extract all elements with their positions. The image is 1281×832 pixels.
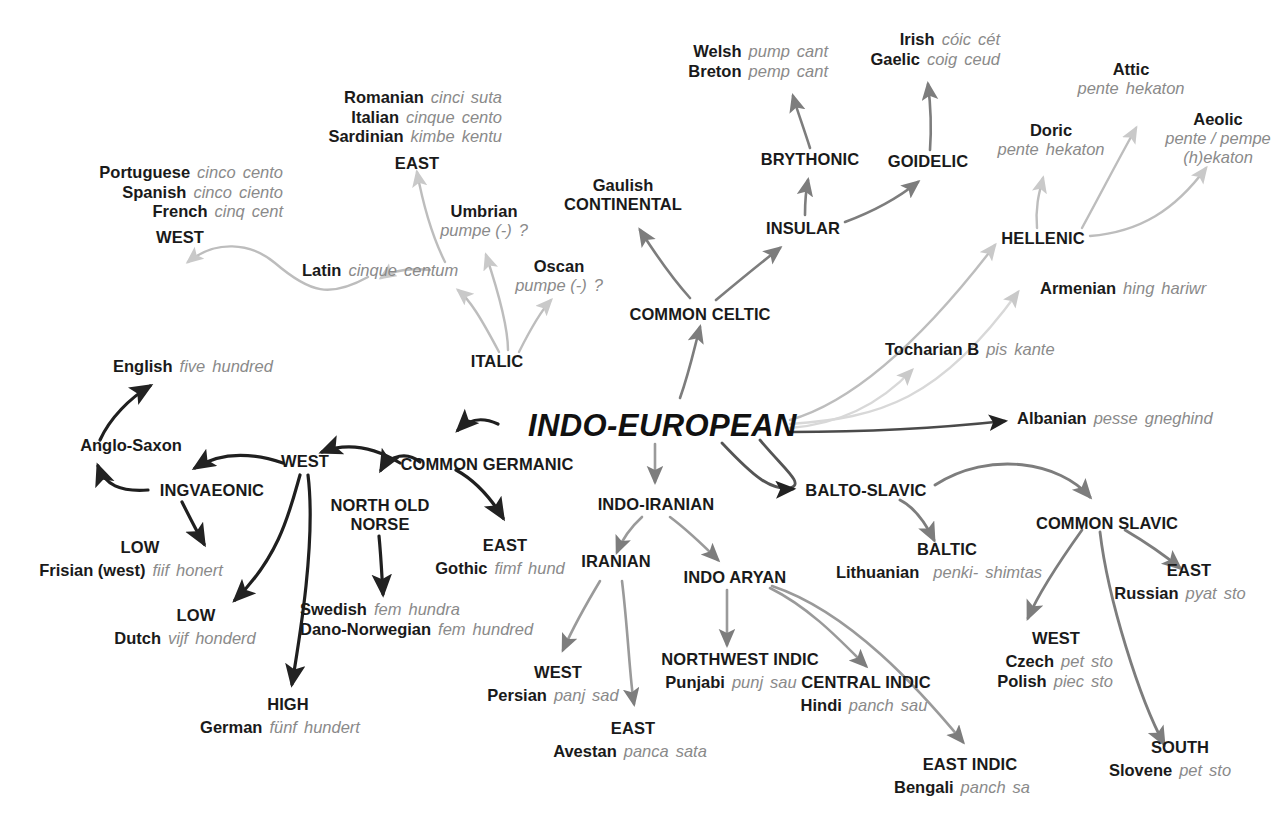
numeral-hundred: hekaton [1046, 140, 1105, 158]
language-entry-persian: Persianpanjsad [487, 686, 618, 706]
language-entry-welsh: Welshpumpcant [688, 42, 828, 62]
numeral-five: cinq [215, 202, 245, 220]
group-goidelic: GOIDELIC [888, 152, 969, 171]
language-entry-dutch: Dutchvijfhonderd [114, 629, 255, 649]
numeral-hundred: ? [519, 221, 528, 239]
language-entry-hindi: Hindipanchsau [801, 696, 928, 716]
language-entry-latin: Latincinquecentum [302, 261, 458, 281]
language-entry-polish: Polishpiecsto [997, 672, 1113, 692]
numeral-five: pente / pempe [1165, 129, 1271, 148]
numeral-five: cinque [348, 261, 397, 279]
language-name: Doric [997, 121, 1104, 140]
romance-west-languages: Portuguesecincocento Spanishcincociento … [99, 163, 283, 222]
numeral-five: piec [1054, 672, 1084, 690]
numeral-hundred: hundred [473, 620, 534, 638]
norse-languages: Swedishfemhundra Dano-Norwegianfemhundre… [300, 600, 533, 639]
language-entry-attic: Attic pentehekaton [1077, 60, 1184, 99]
numeral-five: fem [374, 600, 402, 618]
numeral-hundred: shimtas [985, 563, 1042, 581]
numeral-five: vijf [168, 629, 188, 647]
group-continental: CONTINENTAL [564, 195, 682, 214]
numeral-hundred: cant [797, 42, 828, 60]
group-common-celtic: COMMON CELTIC [629, 305, 770, 324]
numeral-hundred: sto [1224, 584, 1246, 602]
group-north-old-norse: NORTH OLD NORSE [331, 496, 430, 534]
numeral-five: pumpe (-) [515, 276, 587, 294]
numeral-hundred: cento [243, 163, 283, 181]
language-name: Tocharian B [885, 340, 979, 358]
doric-glosses: pentehekaton [997, 140, 1104, 160]
language-name: Frisian (west) [39, 561, 145, 579]
language-entry-bengali: Bengalipanchsa [894, 778, 1030, 798]
numeral-five: pump [749, 42, 790, 60]
numeral-hundred: cent [252, 202, 283, 220]
language-name: English [113, 357, 173, 375]
numeral-five: pente [997, 140, 1038, 158]
romance-east-languages: Romaniancincisuta Italiancinquecento Sar… [328, 88, 502, 147]
numeral-five: pesse [1094, 409, 1138, 427]
attic-glosses: pentehekaton [1077, 79, 1184, 99]
numeral-five: panch [961, 778, 1006, 796]
numeral-hundred: cant [797, 62, 828, 80]
language-name: Avestan [553, 742, 617, 760]
group-balto-slavic: BALTO-SLAVIC [805, 481, 926, 500]
group-indo-aryan: INDO ARYAN [684, 568, 787, 587]
group-west-germanic: WEST [281, 452, 329, 471]
group-romance-west: WEST [156, 228, 204, 247]
language-name: Bengali [894, 778, 954, 796]
numeral-hundred: ceud [964, 50, 1000, 68]
group-baltic: BALTIC [917, 540, 977, 559]
group-brythonic: BRYTHONIC [761, 150, 859, 169]
language-name: Umbrian [440, 202, 528, 221]
node-gaulish-continental: Gaulish CONTINENTAL [564, 176, 682, 214]
group-east-indic: EAST INDIC [923, 755, 1018, 774]
numeral-five: cinco [193, 183, 232, 201]
numeral-five: fünf [269, 718, 297, 736]
numeral-hundred: hariwr [1161, 279, 1206, 297]
language-entry-portuguese: Portuguesecincocento [99, 163, 283, 183]
numeral-hundred: sad [592, 686, 619, 704]
group-central-indic: CENTRAL INDIC [801, 673, 930, 692]
numeral-hundred: honderd [195, 629, 256, 647]
language-entry-slovene: Slovenepetsto [1109, 761, 1231, 781]
language-entry-doric: Doric pentehekaton [997, 121, 1104, 160]
language-entry-italian: Italiancinquecento [328, 108, 502, 128]
group-high-german: HIGH [267, 695, 309, 714]
numeral-hundred: ciento [239, 183, 283, 201]
numeral-hundred: kentu [462, 127, 502, 145]
group-romance-east: EAST [395, 154, 439, 173]
root-node-indo-european: INDO-EUROPEAN [528, 408, 797, 444]
numeral-five: pente [1077, 79, 1118, 97]
group-east-germanic: EAST [483, 536, 527, 555]
language-entry-avestan: Avestanpancasata [553, 742, 707, 762]
language-name: Hindi [801, 696, 842, 714]
numeral-five: kimbe [411, 127, 455, 145]
language-entry-armenian: Armenianhinghariwr [1040, 279, 1206, 299]
brythonic-languages: Welshpumpcant Bretonpempcant [688, 42, 828, 81]
language-entry-aeolic: Aeolic pente / pempe (h)ekaton [1165, 110, 1271, 167]
language-entry-breton: Bretonpempcant [688, 62, 828, 82]
language-name: Welsh [693, 42, 741, 60]
numeral-hundred: centum [404, 261, 458, 279]
numeral-five: penki- [933, 563, 978, 581]
group-iranian-east: EAST [611, 719, 655, 738]
numeral-five: pyat [1185, 584, 1216, 602]
numeral-five: fimf [494, 559, 521, 577]
language-name: German [200, 718, 262, 736]
language-entry-sardinian: Sardiniankimbekentu [328, 127, 502, 147]
language-entry-dano-norwegian: Dano-Norwegianfemhundred [300, 620, 533, 640]
numeral-five: hing [1123, 279, 1154, 297]
language-entry-irish: Irishcóiccét [870, 30, 1000, 50]
language-name: Spanish [122, 183, 186, 201]
language-entry-czech: Czechpetsto [997, 652, 1113, 672]
language-entry-anglo-saxon: Anglo-Saxon [80, 436, 182, 455]
group-hellenic: HELLENIC [1001, 229, 1084, 248]
numeral-five: panch [849, 696, 894, 714]
language-entry-swedish: Swedishfemhundra [300, 600, 533, 620]
group-slavic-east: EAST [1167, 561, 1211, 580]
language-entry-frisian: Frisian (west)fiifhonert [39, 561, 223, 581]
language-entry-gaelic: Gaeliccoigceud [870, 50, 1000, 70]
numeral-five: panj [554, 686, 585, 704]
numeral-hundred: sto [1091, 672, 1113, 690]
language-family-tree-diagram: Romaniancincisuta Italiancinquecento Sar… [0, 0, 1281, 832]
